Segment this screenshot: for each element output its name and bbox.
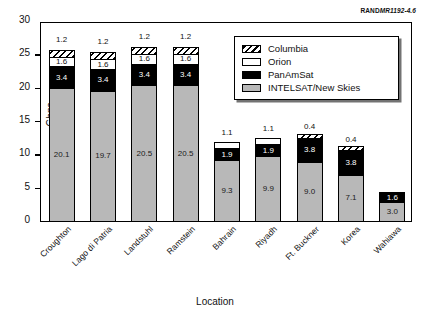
source-credit-prefix: RAND	[361, 7, 380, 14]
bar-segment-value: 1.6	[139, 55, 150, 63]
legend-item[interactable]: PanAmSat	[242, 68, 392, 81]
y-axis-tick-label: 25	[19, 47, 30, 58]
bar-segment-value: 1.6	[56, 58, 67, 66]
legend-item[interactable]: INTELSAT/New Skies	[242, 81, 392, 94]
bar-stack: 0.43.87.1	[338, 146, 364, 221]
bar-group[interactable]: 1.21.63.420.51.2	[131, 21, 157, 221]
bar-segment[interactable]: 3.4	[131, 64, 157, 87]
bar-stack: 1.63.0	[379, 192, 405, 221]
bar-segment[interactable]: 20.5	[173, 85, 199, 222]
x-axis-labels: CroughtonLago di PatriaLandstuhlRamstein…	[40, 224, 412, 290]
bar-segment[interactable]: 19.7	[90, 91, 116, 222]
bar-segment[interactable]: 20.5	[131, 85, 157, 222]
bar-segment-value: 3.0	[387, 208, 398, 216]
bar-group[interactable]: 1.21.63.419.71.2	[90, 21, 116, 221]
bar-segment-value: 20.5	[137, 150, 153, 158]
source-credit-number: MR1192-4.6	[380, 7, 416, 14]
bar-segment-value: 9.9	[263, 185, 274, 193]
bar-top-value-label: 0.4	[345, 135, 356, 144]
bar-top-value-label: 1.2	[56, 35, 67, 44]
bar-segment-value: 1.9	[263, 147, 274, 155]
bar-segment[interactable]: 9.9	[255, 156, 281, 222]
chart-figure: RANDMR1192-4.6 Gbps 051015202530 1.21.63…	[0, 0, 430, 323]
bar-stack: 1.21.63.420.5	[173, 47, 199, 221]
bar-segment-value: 1.6	[387, 194, 398, 202]
legend-swatch	[242, 45, 261, 53]
x-axis-title: Location	[0, 296, 430, 307]
y-axis-tick-label: 5	[24, 181, 30, 192]
x-axis-tick-label: Lago di Patria	[70, 224, 114, 268]
legend-item-label: Orion	[268, 56, 291, 67]
bar-segment-value: 3.8	[304, 146, 315, 154]
bar-segment-value: 3.4	[139, 71, 150, 79]
legend-item-label: Columbia	[268, 43, 308, 54]
bar-top-value-label: 1.1	[221, 128, 232, 137]
bar-segment[interactable]: 7.1	[338, 175, 364, 222]
bar-segment-value: 7.1	[345, 194, 356, 202]
bar-segment-value: 9.3	[221, 187, 232, 195]
x-axis-tick-label: Wahiawa	[372, 224, 404, 256]
legend-swatch	[242, 84, 261, 92]
bar-stack: 1.21.63.420.5	[131, 47, 157, 221]
legend-swatch	[242, 71, 261, 79]
bar-segment-value: 19.7	[95, 152, 111, 160]
bar-segment-value: 1.6	[180, 55, 191, 63]
bar-top-value-label: 1.2	[139, 32, 150, 41]
bar-segment-value: 20.1	[54, 151, 70, 159]
y-axis-tick-label: 30	[19, 14, 30, 25]
x-axis-tick-label: Croughton	[38, 224, 73, 259]
bar-segment[interactable]: 20.1	[49, 88, 75, 222]
bar-group[interactable]: 1.21.63.420.11.2	[49, 21, 75, 221]
y-axis-tick-label: 10	[19, 147, 30, 158]
bar-segment-value: 3.4	[56, 74, 67, 82]
bar-stack: 0.43.89.0	[297, 134, 323, 221]
bar-top-value-label: 1.2	[97, 37, 108, 46]
bar-stack: 1.11.99.9	[255, 138, 281, 221]
bar-segment-value: 1.9	[221, 151, 232, 159]
bar-segment[interactable]: 9.3	[214, 160, 240, 222]
bar-top-value-label: 1.2	[180, 32, 191, 41]
bar-stack: 1.11.99.3	[214, 142, 240, 221]
bar-stack: 1.21.63.420.1	[49, 50, 75, 221]
bar-top-value-label: 0.4	[304, 122, 315, 131]
bar-segment[interactable]: 3.8	[297, 138, 323, 163]
bar-segment-value: 3.4	[180, 71, 191, 79]
y-axis-tick-label: 0	[24, 214, 30, 225]
bar-segment-value: 1.6	[97, 61, 108, 69]
bar-segment[interactable]: 3.4	[49, 66, 75, 89]
bar-top-value-label: 1.1	[263, 124, 274, 133]
x-axis-tick-label: Bahrain	[210, 224, 238, 252]
source-credit: RANDMR1192-4.6	[361, 7, 416, 14]
y-axis-tick-label: 20	[19, 81, 30, 92]
x-axis-tick-label: Ft. Buckner	[283, 224, 321, 262]
bar-group[interactable]: 1.21.63.420.51.2	[173, 21, 199, 221]
y-axis-tick-label: 15	[19, 114, 30, 125]
legend-item-label: PanAmSat	[268, 69, 313, 80]
bar-segment-value: 3.8	[345, 159, 356, 167]
bar-segment[interactable]: 3.8	[338, 150, 364, 175]
bar-stack: 1.21.63.419.7	[90, 52, 116, 221]
x-axis-tick-label: Riyadh	[254, 224, 280, 250]
legend-item[interactable]: Orion	[242, 55, 392, 68]
bar-segment-value: 20.5	[178, 150, 194, 158]
x-axis-tick-label: Ramstein	[164, 224, 196, 256]
bar-segment[interactable]: 3.4	[90, 69, 116, 92]
legend-item[interactable]: Columbia	[242, 42, 392, 55]
bar-segment[interactable]: 3.4	[173, 64, 199, 87]
x-axis-tick-label: Korea	[339, 224, 362, 247]
legend-item-label: INTELSAT/New Skies	[268, 82, 360, 93]
x-axis-tick-label: Landstuhl	[122, 224, 155, 257]
bar-segment-value: 9.0	[304, 188, 315, 196]
bar-segment-value: 3.4	[97, 76, 108, 84]
chart-legend: ColumbiaOrionPanAmSatINTELSAT/New Skies	[234, 36, 399, 100]
bar-segment[interactable]: 9.0	[297, 162, 323, 222]
legend-swatch	[242, 58, 261, 66]
bar-segment[interactable]: 3.0	[379, 202, 405, 222]
